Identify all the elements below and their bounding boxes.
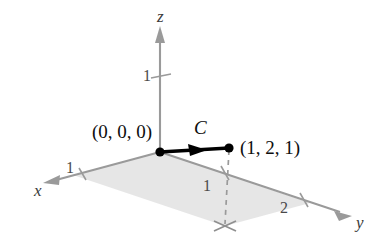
curve-c-label: C — [194, 118, 207, 137]
math-figure: x y z 1 1 1 2 (0, 0, 0) (1, 2, 1) C — [0, 0, 385, 243]
x-axis-tick-1-label: 1 — [66, 160, 74, 176]
origin-coordinate-label: (0, 0, 0) — [92, 122, 152, 141]
z-axis-arrowhead — [155, 26, 165, 43]
x-axis-label: x — [34, 182, 42, 199]
y-axis-tick-2-label: 2 — [280, 200, 288, 216]
origin-dot — [155, 147, 164, 156]
curve-c-orientation-arrowhead — [188, 144, 207, 156]
x-axis-arrowhead — [43, 175, 60, 185]
coordinate-system-graphic — [0, 0, 385, 243]
y-axis-arrowhead — [334, 211, 352, 221]
z-axis-label: z — [157, 8, 164, 25]
z-axis-tick-1-label: 1 — [143, 68, 151, 84]
endpoint-dot — [224, 143, 233, 152]
y-axis-tick-1-label: 1 — [203, 178, 211, 194]
y-axis-label: y — [356, 214, 364, 231]
endpoint-coordinate-label: (1, 2, 1) — [240, 138, 300, 157]
